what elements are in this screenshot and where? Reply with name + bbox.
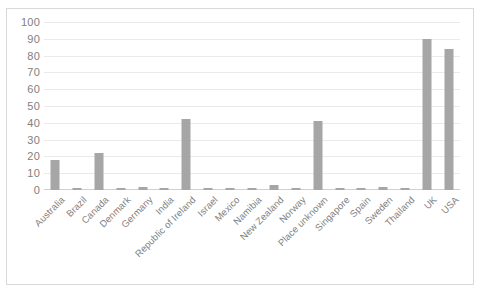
bar-series [44, 22, 460, 190]
bar-slot [153, 22, 175, 190]
y-axis-tick-label: 10 [27, 167, 40, 179]
bar-slot [351, 22, 373, 190]
bar-slot [285, 22, 307, 190]
y-axis-tick-label: 70 [27, 66, 40, 78]
bar[interactable] [50, 160, 59, 190]
plot-area [44, 22, 460, 190]
bar[interactable] [182, 119, 191, 190]
bar-slot [66, 22, 88, 190]
bar-slot [394, 22, 416, 190]
bar-slot [110, 22, 132, 190]
y-axis-tick-label: 30 [27, 134, 40, 146]
bar-slot [197, 22, 219, 190]
bar-chart: 0102030405060708090100 AustraliaBrazilCa… [0, 0, 481, 293]
bar[interactable] [94, 153, 103, 190]
bar-slot [44, 22, 66, 190]
bar-slot [132, 22, 154, 190]
bar-slot [372, 22, 394, 190]
bar-slot [263, 22, 285, 190]
bar-slot [307, 22, 329, 190]
y-axis-tick-label: 80 [27, 50, 40, 62]
y-axis-tick-label: 40 [27, 117, 40, 129]
y-axis-tick-label: 50 [27, 100, 40, 112]
bar-slot [438, 22, 460, 190]
y-axis-tick-label: 90 [27, 33, 40, 45]
bar[interactable] [423, 39, 432, 190]
y-axis-tick-label: 60 [27, 83, 40, 95]
bar-slot [416, 22, 438, 190]
bar-slot [329, 22, 351, 190]
bar-slot [175, 22, 197, 190]
bar-slot [219, 22, 241, 190]
x-axis-tick-label: USA [439, 194, 461, 216]
y-axis-tick-label: 100 [21, 16, 40, 28]
x-axis-tick-label: UK [422, 194, 439, 211]
x-axis-category-labels: AustraliaBrazilCanadaDenmarkGermanyIndia… [44, 190, 460, 285]
x-axis-tick-label: Australia [32, 194, 67, 229]
bar[interactable] [313, 121, 322, 190]
y-axis-tick-label: 0 [34, 184, 40, 196]
bar[interactable] [445, 49, 454, 190]
y-axis-tick-labels: 0102030405060708090100 [6, 22, 40, 190]
bar-slot [88, 22, 110, 190]
bar-slot [241, 22, 263, 190]
y-axis-tick-label: 20 [27, 150, 40, 162]
